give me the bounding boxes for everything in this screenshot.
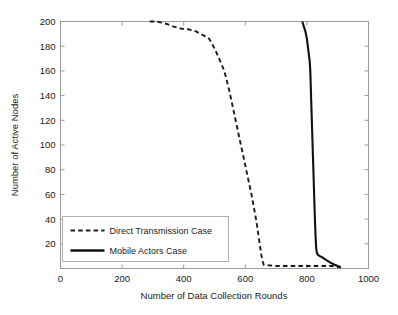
x-axis-title: Number of Data Collection Rounds	[141, 290, 288, 301]
y-tick-label-160: 160	[40, 65, 56, 76]
chart-legend: Direct Transmission CaseMobile Actors Ca…	[63, 217, 229, 262]
y-axis-tick-labels: 20406080100120140160180200	[40, 16, 56, 249]
x-tick-label-200: 200	[114, 273, 130, 284]
y-tick-label-40: 40	[45, 214, 56, 225]
y-axis-title: Number of Active Nodes	[9, 94, 20, 197]
x-tick-label-0: 0	[58, 273, 63, 284]
y-axis-tickmarks	[61, 22, 369, 244]
x-tick-label-600: 600	[237, 273, 253, 284]
y-tick-label-80: 80	[45, 164, 56, 175]
y-tick-label-100: 100	[40, 139, 56, 150]
series-line-mobile-actors-case	[302, 22, 341, 268]
x-tick-label-1000: 1000	[358, 273, 379, 284]
y-tick-label-60: 60	[45, 189, 56, 200]
legend-label-mobile-actors-case: Mobile Actors Case	[110, 246, 188, 256]
y-tick-label-180: 180	[40, 41, 56, 52]
figure-container: 02004006008001000 2040608010012014016018…	[0, 0, 398, 315]
y-tick-label-200: 200	[40, 16, 56, 27]
y-tick-label-120: 120	[40, 115, 56, 126]
x-tick-label-400: 400	[176, 273, 192, 284]
x-axis-tick-labels: 02004006008001000	[58, 273, 379, 284]
line-chart: 02004006008001000 2040608010012014016018…	[0, 0, 398, 315]
y-tick-label-20: 20	[45, 238, 56, 249]
x-tick-label-800: 800	[299, 273, 315, 284]
y-tick-label-140: 140	[40, 90, 56, 101]
legend-label-direct-transmission-case: Direct Transmission Case	[110, 226, 213, 236]
